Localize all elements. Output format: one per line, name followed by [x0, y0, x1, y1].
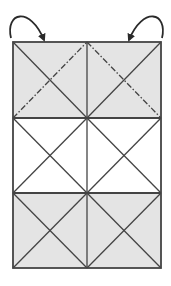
diagram-canvas [0, 0, 171, 286]
left-fold-arrow-icon [10, 16, 44, 40]
right-fold-arrow-icon [129, 16, 163, 40]
fold-diagram [0, 0, 171, 286]
